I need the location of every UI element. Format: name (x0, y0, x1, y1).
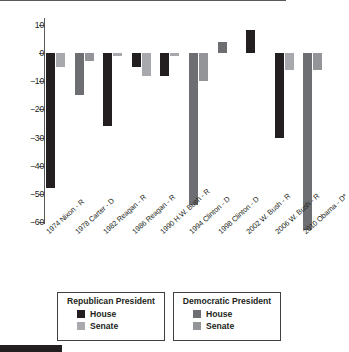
y-tick-label: 10 (10, 21, 44, 30)
bar-group (45, 0, 74, 232)
bar-house (246, 30, 255, 53)
y-tick-label: −10 (10, 77, 44, 86)
bar-senate (85, 53, 94, 61)
y-tick-label: −40 (10, 162, 44, 171)
bar-group (102, 0, 131, 232)
bar-house (103, 53, 112, 126)
legend-swatch-democratic-senate (193, 322, 201, 330)
legend-republican-title: Republican President (58, 296, 164, 306)
y-tick-row: −20 (0, 109, 44, 110)
bar-senate (313, 53, 322, 70)
y-tick-label: −20 (10, 105, 44, 114)
y-tick-row: −10 (0, 81, 44, 82)
bar-house (218, 42, 227, 53)
bar-house (132, 53, 141, 67)
bar-senate (170, 53, 179, 56)
y-tick-row: −50 (0, 194, 44, 195)
y-tick-row: 10 (0, 25, 44, 26)
chart-legend: Republican President House Senate Democr… (57, 292, 281, 342)
y-tick-row: −60 (0, 222, 44, 223)
bar-house (160, 53, 169, 76)
y-tick-row: −40 (0, 166, 44, 167)
bar-house (189, 53, 198, 205)
y-tick-label: −60 (10, 218, 44, 227)
bar-senate (199, 53, 208, 81)
footer-rule (0, 345, 62, 352)
y-tick-label: −30 (10, 134, 44, 143)
y-tick-label: −50 (10, 190, 44, 199)
bar-senate (56, 53, 65, 67)
bar-house (75, 53, 84, 95)
y-tick-row: −30 (0, 138, 44, 139)
bar-senate (113, 53, 122, 56)
legend-democratic: Democratic President House Senate (173, 292, 281, 341)
legend-label-republican-house: House (90, 309, 116, 319)
legend-republican: Republican President House Senate (57, 292, 165, 341)
legend-label-democratic-house: House (206, 309, 232, 319)
legend-label-republican-senate: Senate (90, 321, 118, 331)
bar-senate (142, 53, 151, 76)
legend-swatch-republican-house (77, 310, 85, 318)
legend-democratic-title: Democratic President (174, 296, 280, 306)
legend-swatch-democratic-house (193, 310, 201, 318)
bar-senate (285, 53, 294, 70)
y-tick-row: 0 (0, 53, 44, 54)
bar-house (46, 53, 55, 188)
legend-swatch-republican-senate (77, 322, 85, 330)
bar-house (275, 53, 284, 138)
bar-group (245, 0, 274, 232)
x-axis-labels: 1974 Nixon - R1978 Carter - D1982 Reagan… (0, 228, 335, 290)
y-tick-label: 0 (10, 49, 44, 58)
legend-label-democratic-senate: Senate (206, 321, 234, 331)
